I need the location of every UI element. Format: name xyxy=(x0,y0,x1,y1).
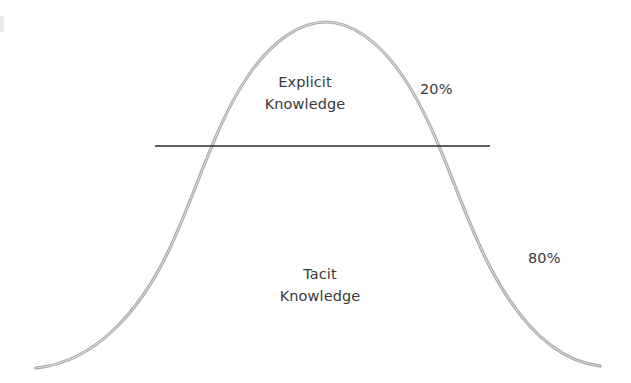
explicit-knowledge-label-line2: Knowledge xyxy=(240,93,370,115)
tacit-knowledge-label-line1: Tacit xyxy=(255,263,385,285)
bell-curve-graphic xyxy=(0,0,631,383)
explicit-knowledge-label-line1: Explicit xyxy=(240,71,370,93)
tacit-percentage-label: 80% xyxy=(528,247,598,269)
explicit-percentage-label: 20% xyxy=(420,78,490,100)
tacit-knowledge-label-line2: Knowledge xyxy=(255,285,385,307)
explicit-knowledge-label: Explicit Knowledge xyxy=(240,71,370,115)
tacit-knowledge-label: Tacit Knowledge xyxy=(255,263,385,307)
bell-curve-figure: Explicit Knowledge Tacit Knowledge 20% 8… xyxy=(0,0,631,383)
